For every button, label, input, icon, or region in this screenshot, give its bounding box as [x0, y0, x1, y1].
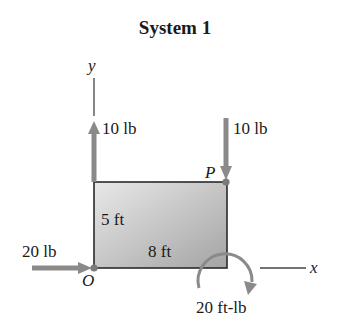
- force-label-up: 10 lb: [102, 120, 136, 137]
- diagram-graphics: [0, 0, 350, 330]
- diagram-title: System 1: [0, 17, 350, 39]
- force-label-horizontal: 20 lb: [22, 243, 56, 260]
- moment-label: 20 ft-lb: [196, 299, 247, 316]
- point-p-label: P: [205, 164, 215, 181]
- width-dimension-label: 8 ft: [148, 243, 171, 260]
- force-label-down: 10 lb: [233, 120, 267, 137]
- force-arrow-up-icon: [88, 121, 100, 182]
- height-dimension-label: 5 ft: [101, 211, 124, 228]
- point-p-marker: [222, 178, 229, 185]
- point-o-label: O: [82, 272, 94, 289]
- y-axis-label: y: [88, 57, 96, 74]
- force-arrow-down-icon: [220, 118, 232, 180]
- free-body-diagram: System 1 y x 10 lb 10 lb 20 lb P O 5 ft …: [0, 0, 350, 330]
- x-axis-label: x: [310, 259, 318, 276]
